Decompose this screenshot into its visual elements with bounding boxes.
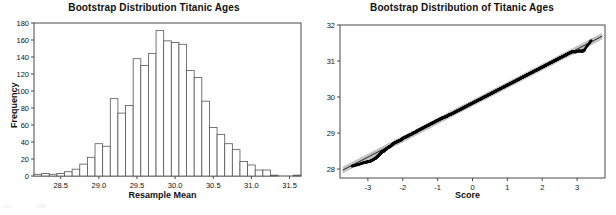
y-tick-label: 40 — [21, 138, 29, 147]
histogram-bar — [248, 165, 256, 176]
histogram-bar — [217, 134, 225, 176]
data-point — [589, 41, 592, 44]
figure-root: Bootstrap Distribution Titanic Ages Freq… — [0, 0, 616, 215]
histogram-panel: Bootstrap Distribution Titanic Ages Freq… — [0, 0, 308, 215]
x-tick-label: 31.0 — [244, 181, 259, 190]
x-tick-label: 29.5 — [130, 181, 145, 190]
histogram-y-axis-title: Frequency — [9, 82, 19, 128]
histogram-bar — [209, 128, 217, 176]
histogram-title: Bootstrap Distribution Titanic Ages — [0, 2, 308, 13]
histogram-bar — [202, 101, 210, 176]
histogram-bar — [148, 54, 156, 176]
histogram-bar — [65, 172, 73, 176]
histogram-bar — [87, 157, 95, 176]
histogram-bar — [80, 164, 88, 176]
histogram-bar — [263, 170, 271, 176]
histogram-bar — [57, 173, 65, 176]
histogram-x-axis-title: Resample Mean — [24, 190, 301, 200]
histogram-bar — [240, 162, 248, 176]
histogram-bar — [110, 99, 118, 176]
probability-plot-x-axis-title: Score — [330, 190, 605, 200]
histogram-bars — [34, 31, 301, 176]
x-tick-label: 30.5 — [206, 181, 221, 190]
y-tick-label: 32 — [327, 21, 335, 30]
scan-artifact-left — [3, 205, 12, 208]
y-tick-label: 28 — [327, 165, 335, 174]
histogram-bar — [187, 71, 195, 176]
histogram-bar — [95, 144, 103, 176]
histogram-bar — [133, 59, 141, 176]
histogram-bar — [141, 66, 149, 177]
x-tick-label: 29.0 — [92, 181, 107, 190]
histogram-bar — [34, 174, 42, 176]
histogram-bar — [225, 144, 233, 176]
y-tick-label: 120 — [16, 70, 29, 79]
y-tick-label: 20 — [21, 155, 29, 164]
histogram-bar — [103, 146, 111, 176]
histogram-bar — [171, 43, 179, 176]
x-tick-label: 31.5 — [282, 181, 297, 190]
histogram-bar — [49, 174, 57, 176]
y-tick-label: 180 — [16, 19, 29, 28]
y-tick-label: 60 — [21, 121, 29, 130]
histogram-bar — [72, 169, 80, 176]
histogram-plot: 02040608010012014016018028.529.029.530.0… — [0, 0, 308, 215]
histogram-bar — [179, 44, 187, 176]
histogram-bar — [293, 175, 301, 176]
histogram-bar — [270, 175, 278, 176]
histogram-bar — [194, 77, 202, 176]
x-tick-label: 28.5 — [53, 181, 68, 190]
y-tick-label: 80 — [21, 104, 29, 113]
probability-plot-title: Bootstrap Distribution of Titanic Ages — [308, 2, 616, 13]
y-tick-label: 30 — [327, 93, 335, 102]
y-tick-label: 29 — [327, 129, 335, 138]
histogram-bar — [118, 113, 126, 176]
y-tick-label: 31 — [327, 57, 335, 66]
probability-plot-panel: Bootstrap Distribution of Titanic Ages 2… — [308, 0, 616, 215]
data-points — [351, 39, 593, 167]
x-tick-label: 30.0 — [168, 181, 183, 190]
scan-artifact-right — [36, 204, 46, 208]
histogram-bar — [156, 31, 164, 176]
confidence-band-line — [343, 33, 602, 167]
y-tick-label: 160 — [16, 36, 29, 45]
histogram-bar — [42, 173, 50, 176]
y-tick-label: 0 — [25, 172, 29, 181]
probability-plot: 2829303132-3-2-10123 — [308, 0, 616, 215]
histogram-bar — [232, 150, 240, 176]
histogram-bar — [255, 170, 263, 176]
histogram-bar — [126, 105, 134, 176]
histogram-bar — [164, 41, 172, 176]
y-tick-label: 140 — [16, 53, 29, 62]
